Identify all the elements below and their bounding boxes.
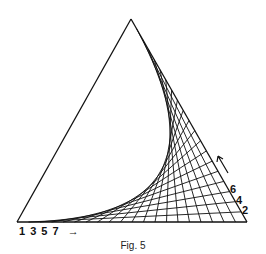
bottom-edge-labels: 1 3 5 7 → bbox=[19, 226, 80, 237]
figure-page: 1 3 5 7 → 6 4 2 Fig. 5 bbox=[0, 0, 266, 254]
stitched-curve-diagram bbox=[0, 0, 266, 254]
figure-caption: Fig. 5 bbox=[0, 240, 266, 251]
stitch-line bbox=[137, 29, 236, 222]
left-edge bbox=[17, 19, 131, 222]
stitch-line bbox=[143, 39, 224, 222]
stitch-line bbox=[148, 49, 212, 222]
right-arrow-icon: → bbox=[68, 225, 80, 237]
right-label-2: 2 bbox=[242, 205, 248, 216]
up-arrow-icon bbox=[217, 156, 228, 173]
bottom-numbers: 1 3 5 7 bbox=[19, 225, 60, 237]
